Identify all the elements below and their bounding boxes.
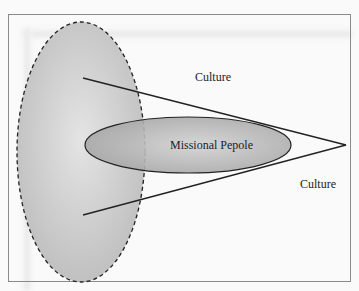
- label-missional-people: Missional Pepole: [170, 138, 253, 153]
- label-culture-top: Culture: [195, 70, 231, 85]
- diagram-page: Culture Missional Pepole Culture: [0, 0, 359, 291]
- label-culture-right: Culture: [300, 177, 336, 192]
